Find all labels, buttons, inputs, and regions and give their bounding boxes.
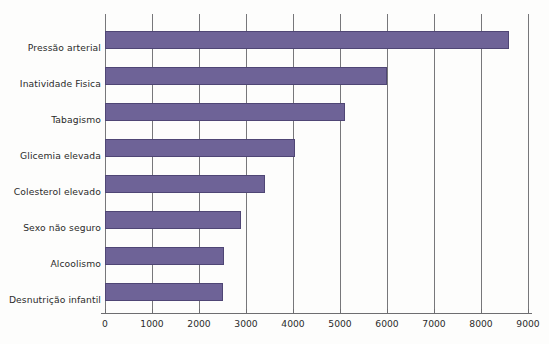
gridline-1000 <box>152 14 153 313</box>
x-tick-label-1000: 1000 <box>129 318 175 330</box>
x-tick-label-8000: 8000 <box>458 318 504 330</box>
x-tick-8000 <box>481 309 482 314</box>
gridline-0 <box>105 14 106 313</box>
category-label-sexo-nao-seguro: Sexo não seguro <box>0 222 101 233</box>
bar-pressao-arterial <box>105 31 509 49</box>
category-label-inatividade-fisica: Inatividade Fisica <box>0 78 101 89</box>
x-tick-label-5000: 5000 <box>317 318 363 330</box>
x-tick-0 <box>105 309 106 314</box>
bar-chart: Pressão arterial Inatividade Fisica Taba… <box>0 0 549 344</box>
bar-alcoolismo <box>105 247 224 265</box>
gridline-9000 <box>528 14 529 313</box>
x-tick-label-2000: 2000 <box>176 318 222 330</box>
bar-glicemia-elevada <box>105 139 295 157</box>
x-tick-3000 <box>246 309 247 314</box>
bar-sexo-nao-seguro <box>105 211 241 229</box>
x-tick-label-4000: 4000 <box>270 318 316 330</box>
bar-colesterol-elevado <box>105 175 265 193</box>
gridline-7000 <box>434 14 435 313</box>
x-tick-label-3000: 3000 <box>223 318 269 330</box>
gridline-3000 <box>246 14 247 313</box>
category-label-colesterol-elevado: Colesterol elevado <box>0 186 101 197</box>
plot-area <box>105 14 528 313</box>
x-tick-6000 <box>387 309 388 314</box>
x-axis-line <box>101 313 532 314</box>
x-tick-4000 <box>293 309 294 314</box>
category-axis: Pressão arterial Inatividade Fisica Taba… <box>0 14 101 313</box>
x-tick-9000 <box>528 309 529 314</box>
bar-inatividade-fisica <box>105 67 387 85</box>
gridline-5000 <box>340 14 341 313</box>
category-label-desnutricao-infantil: Desnutrição infantil <box>0 294 101 305</box>
category-label-pressao-arterial: Pressão arterial <box>0 42 101 53</box>
gridline-4000 <box>293 14 294 313</box>
category-label-tabagismo: Tabagismo <box>0 114 101 125</box>
gridline-2000 <box>199 14 200 313</box>
x-tick-1000 <box>152 309 153 314</box>
bar-desnutricao-infantil <box>105 283 223 301</box>
bar-tabagismo <box>105 103 345 121</box>
x-tick-label-0: 0 <box>82 318 128 330</box>
x-tick-5000 <box>340 309 341 314</box>
x-tick-label-7000: 7000 <box>411 318 457 330</box>
gridline-8000 <box>481 14 482 313</box>
x-tick-2000 <box>199 309 200 314</box>
category-label-alcoolismo: Alcoolismo <box>0 258 101 269</box>
x-tick-label-9000: 9000 <box>505 318 549 330</box>
category-label-glicemia-elevada: Glicemia elevada <box>0 150 101 161</box>
x-tick-7000 <box>434 309 435 314</box>
x-tick-label-6000: 6000 <box>364 318 410 330</box>
gridline-6000 <box>387 14 388 313</box>
